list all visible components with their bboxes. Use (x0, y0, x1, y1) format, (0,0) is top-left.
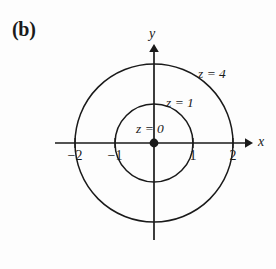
level-curve-z0-origin-dot (150, 139, 159, 148)
x-tick-label-pos1: 1 (185, 148, 201, 164)
x-axis-arrowhead (245, 138, 253, 148)
level-label-z1: z = 1 (166, 95, 194, 111)
x-tick-label-neg2: −2 (63, 148, 87, 164)
y-axis-label: y (149, 26, 155, 42)
x-tick-label-pos2: 2 (225, 148, 241, 164)
level-label-z0: z = 0 (136, 121, 164, 137)
x-axis-label: x (258, 134, 264, 150)
y-axis-arrowhead (149, 44, 159, 52)
x-tick-label-neg1: −1 (103, 148, 127, 164)
level-label-z4: z = 4 (198, 66, 226, 82)
figure-panel: (b) y x −2 −1 1 2 z = 4 z = 1 z = 0 (0, 0, 276, 269)
